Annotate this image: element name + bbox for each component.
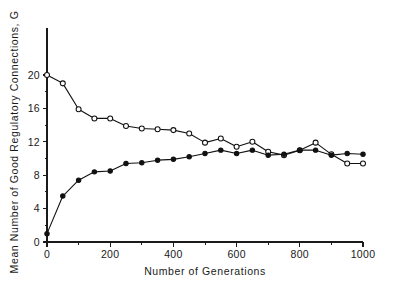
x-tick-label: 1000: [351, 248, 376, 260]
data-point-rising-series: [345, 151, 349, 155]
data-point-rising-series: [282, 152, 286, 156]
data-point-declining-series: [92, 116, 97, 121]
data-point-declining-series: [108, 116, 113, 121]
data-point-rising-series: [313, 148, 317, 152]
data-point-rising-series: [203, 151, 207, 155]
chart-plot-area: 04812162002004006008001000 Number of Gen…: [0, 0, 394, 289]
axis-tick-labels: 04812162002004006008001000: [28, 69, 376, 260]
x-tick-label: 600: [227, 248, 245, 260]
data-point-rising-series: [140, 160, 144, 164]
series-line-rising-series: [47, 150, 363, 234]
data-point-declining-series: [45, 73, 50, 78]
data-point-declining-series: [218, 136, 223, 141]
y-tick-label: 0: [34, 236, 40, 248]
data-point-rising-series: [124, 161, 128, 165]
axes-group: [47, 28, 363, 242]
y-tick-label: 8: [34, 169, 40, 181]
y-tick-label: 12: [28, 136, 40, 148]
data-point-rising-series: [187, 155, 191, 159]
data-point-rising-series: [108, 169, 112, 173]
series-group: [45, 73, 366, 236]
data-point-declining-series: [171, 128, 176, 133]
data-point-rising-series: [61, 194, 65, 198]
chart-figure: 04812162002004006008001000 Number of Gen…: [0, 0, 394, 289]
data-point-declining-series: [203, 140, 208, 145]
data-point-rising-series: [234, 151, 238, 155]
data-point-declining-series: [76, 107, 81, 112]
y-tick-label: 16: [28, 102, 40, 114]
data-point-declining-series: [60, 81, 65, 86]
data-point-rising-series: [266, 153, 270, 157]
data-point-declining-series: [187, 131, 192, 136]
data-point-rising-series: [361, 152, 365, 156]
data-point-rising-series: [298, 148, 302, 152]
y-tick-label: 4: [34, 202, 40, 214]
x-tick-label: 800: [291, 248, 309, 260]
y-axis-title: Mean Number of Good Regulatory Connectio…: [8, 11, 20, 274]
data-point-rising-series: [76, 178, 80, 182]
data-point-rising-series: [219, 148, 223, 152]
data-point-declining-series: [155, 127, 160, 132]
data-point-rising-series: [45, 231, 49, 235]
data-point-declining-series: [361, 161, 366, 166]
data-point-declining-series: [250, 139, 255, 144]
x-axis-title: Number of Generations: [144, 265, 266, 277]
data-point-declining-series: [234, 144, 239, 149]
data-point-rising-series: [329, 153, 333, 157]
data-point-rising-series: [171, 157, 175, 161]
data-point-declining-series: [313, 140, 318, 145]
data-point-declining-series: [345, 161, 350, 166]
data-point-declining-series: [124, 123, 129, 128]
x-tick-label: 0: [44, 248, 50, 260]
data-point-rising-series: [250, 148, 254, 152]
data-point-rising-series: [92, 170, 96, 174]
data-point-declining-series: [139, 126, 144, 131]
x-tick-label: 200: [101, 248, 119, 260]
y-tick-label: 20: [28, 69, 40, 81]
ticks-group: [43, 75, 363, 247]
data-point-rising-series: [155, 158, 159, 162]
x-tick-label: 400: [164, 248, 182, 260]
